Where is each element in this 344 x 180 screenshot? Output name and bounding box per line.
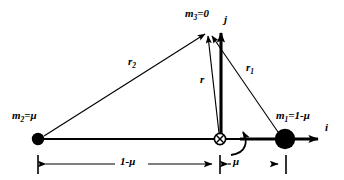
body-m2-dot xyxy=(32,133,44,145)
label-vector-r2: r2 xyxy=(128,56,136,70)
barycenter-marker-icon xyxy=(214,133,225,144)
label-m1: m1=1-μ xyxy=(276,110,310,124)
label-vector-j: j xyxy=(224,14,227,25)
label-dimension-1-minus-mu: 1-μ xyxy=(120,156,135,167)
rotation-arrow-icon xyxy=(231,132,246,155)
label-m2: m2=μ xyxy=(12,110,37,124)
label-dimension-mu: μ xyxy=(233,156,239,167)
three-body-diagram: m2=μ m1=1-μ m3=0 r2 r1 r j i 1-μ μ xyxy=(0,0,344,180)
vector-r2 xyxy=(44,34,205,136)
label-vector-r: r xyxy=(200,74,204,85)
label-vector-r1: r1 xyxy=(246,62,254,76)
body-m1-dot xyxy=(275,129,295,149)
diagram-canvas xyxy=(0,0,344,180)
label-m3: m3=0 xyxy=(185,8,209,22)
label-vector-i: i xyxy=(325,122,328,133)
vector-r xyxy=(208,36,219,133)
